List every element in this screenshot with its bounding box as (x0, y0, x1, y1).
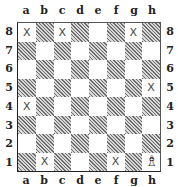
square-h6[interactable] (142, 60, 160, 79)
square-g6[interactable] (125, 60, 143, 79)
file-labels-top: abcdefgh (17, 4, 161, 18)
file-label-b: b (35, 174, 53, 187)
rank-label-4: 4 (164, 97, 176, 116)
square-a3[interactable] (18, 116, 36, 135)
x-mark-icon: X (41, 156, 49, 167)
square-b7[interactable] (36, 42, 54, 61)
square-f7[interactable] (107, 42, 125, 61)
x-mark-icon: X (112, 156, 120, 167)
square-g7[interactable] (125, 42, 143, 61)
square-d6[interactable] (71, 60, 89, 79)
chess-board: XXXXXXX♗ (17, 22, 161, 172)
square-e2[interactable] (89, 134, 107, 153)
square-f4[interactable] (107, 97, 125, 116)
file-label-b: b (35, 4, 53, 18)
square-a8[interactable]: X (18, 23, 36, 42)
square-h3[interactable] (142, 116, 160, 135)
x-mark-icon: X (59, 27, 67, 38)
square-h2[interactable] (142, 134, 160, 153)
square-c8[interactable]: X (54, 23, 72, 42)
rank-label-4: 4 (3, 97, 15, 116)
rank-labels-left: 87654321 (3, 22, 15, 172)
square-g3[interactable] (125, 116, 143, 135)
square-f1[interactable]: X (107, 153, 125, 172)
rank-label-2: 2 (3, 135, 15, 154)
square-a7[interactable] (18, 42, 36, 61)
square-h5[interactable]: X (142, 79, 160, 98)
square-f3[interactable] (107, 116, 125, 135)
file-label-c: c (53, 174, 71, 187)
rank-label-7: 7 (3, 41, 15, 60)
square-b8[interactable] (36, 23, 54, 42)
square-d2[interactable] (71, 134, 89, 153)
file-label-d: d (71, 4, 89, 18)
square-e1[interactable] (89, 153, 107, 172)
file-label-a: a (17, 174, 35, 187)
file-label-g: g (125, 174, 143, 187)
square-b5[interactable] (36, 79, 54, 98)
square-b2[interactable] (36, 134, 54, 153)
square-c2[interactable] (54, 134, 72, 153)
file-label-g: g (125, 4, 143, 18)
rank-label-1: 1 (3, 153, 15, 172)
square-g5[interactable] (125, 79, 143, 98)
square-b3[interactable] (36, 116, 54, 135)
square-e8[interactable] (89, 23, 107, 42)
file-label-f: f (107, 174, 125, 187)
file-label-f: f (107, 4, 125, 18)
square-h8[interactable] (142, 23, 160, 42)
square-d7[interactable] (71, 42, 89, 61)
square-h1[interactable]: ♗ (142, 153, 160, 172)
file-label-c: c (53, 4, 71, 18)
square-h7[interactable] (142, 42, 160, 61)
square-b4[interactable] (36, 97, 54, 116)
square-e3[interactable] (89, 116, 107, 135)
rank-label-3: 3 (3, 116, 15, 135)
square-c4[interactable] (54, 97, 72, 116)
rank-label-8: 8 (3, 22, 15, 41)
square-g1[interactable] (125, 153, 143, 172)
square-g8[interactable]: X (125, 23, 143, 42)
file-label-h: h (143, 174, 161, 187)
square-e4[interactable] (89, 97, 107, 116)
square-a2[interactable] (18, 134, 36, 153)
rank-label-3: 3 (164, 116, 176, 135)
square-b1[interactable]: X (36, 153, 54, 172)
square-g4[interactable] (125, 97, 143, 116)
square-f6[interactable] (107, 60, 125, 79)
square-a6[interactable] (18, 60, 36, 79)
square-f2[interactable] (107, 134, 125, 153)
square-e5[interactable] (89, 79, 107, 98)
rank-label-6: 6 (164, 60, 176, 79)
square-a4[interactable]: X (18, 97, 36, 116)
file-label-e: e (89, 4, 107, 18)
file-label-e: e (89, 174, 107, 187)
square-d5[interactable] (71, 79, 89, 98)
square-f8[interactable] (107, 23, 125, 42)
square-h4[interactable] (142, 97, 160, 116)
square-c1[interactable] (54, 153, 72, 172)
square-e7[interactable] (89, 42, 107, 61)
square-d8[interactable] (71, 23, 89, 42)
rank-label-5: 5 (3, 78, 15, 97)
square-c6[interactable] (54, 60, 72, 79)
white-bishop-icon[interactable]: ♗ (145, 154, 158, 169)
square-a1[interactable] (18, 153, 36, 172)
file-label-a: a (17, 4, 35, 18)
square-a5[interactable] (18, 79, 36, 98)
square-g2[interactable] (125, 134, 143, 153)
square-d4[interactable] (71, 97, 89, 116)
square-e6[interactable] (89, 60, 107, 79)
square-d3[interactable] (71, 116, 89, 135)
square-f5[interactable] (107, 79, 125, 98)
square-d1[interactable] (71, 153, 89, 172)
square-c7[interactable] (54, 42, 72, 61)
file-label-d: d (71, 174, 89, 187)
rank-label-6: 6 (3, 60, 15, 79)
rank-label-1: 1 (164, 153, 176, 172)
rank-label-7: 7 (164, 41, 176, 60)
square-c3[interactable] (54, 116, 72, 135)
square-b6[interactable] (36, 60, 54, 79)
file-label-h: h (143, 4, 161, 18)
square-c5[interactable] (54, 79, 72, 98)
